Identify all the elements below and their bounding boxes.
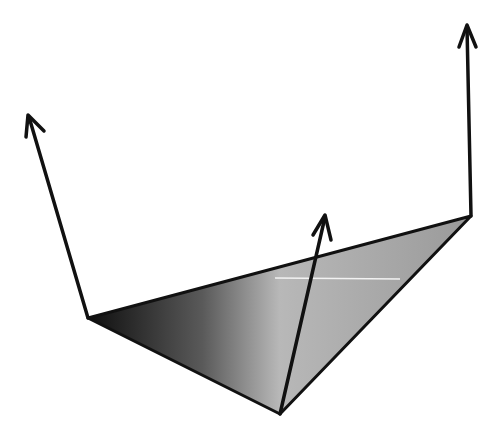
diagram-canvas [0,0,504,441]
shaded-triangle [88,216,471,414]
diagram-svg [0,0,504,441]
left-vertex-normal-arrow [26,115,88,318]
highlight-line [275,278,400,279]
right-vertex-normal-arrow [459,25,476,216]
